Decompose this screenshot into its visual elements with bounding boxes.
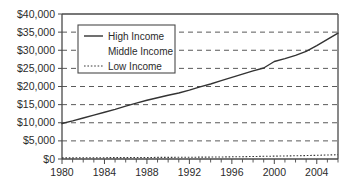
income-line-chart: $0$5,000$10,000$15,000$20,000$25,000$30,… (0, 0, 355, 189)
y-tick-label-10000: $10,000 (17, 116, 55, 128)
y-axis-tick-group: $0$5,000$10,000$15,000$20,000$25,000$30,… (17, 8, 62, 165)
x-axis-label-group: 1980198419881992199620002004 (50, 166, 328, 178)
y-tick-label-0: $0 (43, 153, 55, 165)
x-tick-label-1984: 1984 (93, 166, 117, 178)
x-tick-label-1996: 1996 (220, 166, 244, 178)
y-tick-label-15000: $15,000 (17, 98, 55, 110)
y-tick-label-30000: $30,000 (17, 44, 55, 56)
y-tick-label-35000: $35,000 (17, 26, 55, 38)
y-tick-label-25000: $25,000 (17, 62, 55, 74)
x-tick-label-1980: 1980 (50, 166, 74, 178)
x-tick-label-2000: 2000 (263, 166, 287, 178)
chart-screenshot: $0$5,000$10,000$15,000$20,000$25,000$30,… (0, 0, 355, 189)
legend-label-high-income[interactable]: High Income (108, 31, 165, 42)
y-tick-label-5000: $5,000 (23, 134, 55, 146)
x-tick-label-1992: 1992 (178, 166, 202, 178)
y-tick-label-40000: $40,000 (17, 8, 55, 20)
x-axis-tick-group (62, 159, 338, 164)
legend-label-low-income[interactable]: Low Income (108, 61, 162, 72)
legend-label-middle-income[interactable]: Middle Income (108, 46, 173, 57)
chart-legend[interactable]: High IncomeMiddle IncomeLow Income (78, 25, 175, 73)
y-tick-label-20000: $20,000 (17, 80, 55, 92)
x-tick-label-2004: 2004 (305, 166, 329, 178)
x-tick-label-1988: 1988 (135, 166, 159, 178)
